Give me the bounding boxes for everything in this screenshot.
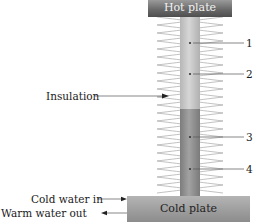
warm-water-out-label: Warm water out (1, 207, 87, 219)
hot-plate: Hot plate (148, 0, 232, 17)
point-1-marker (189, 42, 191, 44)
diagram-canvas (0, 0, 254, 224)
hot-plate-label: Hot plate (164, 1, 216, 14)
cold-plate-label: Cold plate (160, 202, 217, 215)
lower-rod (180, 109, 200, 196)
leader-lines (95, 43, 244, 213)
warm-water-out-arrow-head (101, 211, 107, 215)
point-4-label: 4 (246, 163, 253, 175)
point-3-label: 3 (246, 131, 253, 143)
point-4-marker (189, 168, 191, 170)
cold-plate: Cold plate (127, 196, 250, 222)
point-2-marker (189, 73, 191, 75)
point-1-label: 1 (246, 37, 253, 49)
point-2-label: 2 (246, 68, 253, 80)
point-3-marker (189, 136, 191, 138)
upper-rod (180, 16, 200, 109)
cold-water-in-label: Cold water in (31, 193, 103, 205)
insulation-label: Insulation (46, 90, 99, 102)
